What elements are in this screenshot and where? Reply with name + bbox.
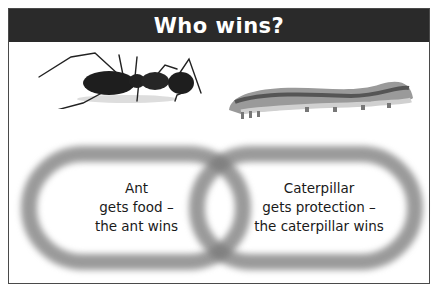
ant-label-line-2: gets food – [49,198,224,217]
caterpillar-label-line-3: the caterpillar wins [219,217,419,236]
ant-ring-label: Ant gets food – the ant wins [49,179,224,236]
caterpillar-label-line-1: Caterpillar [219,179,419,198]
caterpillar-image [221,74,421,120]
ant-image [27,47,227,109]
diagram-frame: Who wins? [8,8,430,284]
ant-label-line-1: Ant [49,179,224,198]
caterpillar-label-line-2: gets protection – [219,198,419,217]
page-title: Who wins? [9,9,429,42]
caterpillar-ring-label: Caterpillar gets protection – the caterp… [219,179,419,236]
ant-label-line-3: the ant wins [49,217,224,236]
